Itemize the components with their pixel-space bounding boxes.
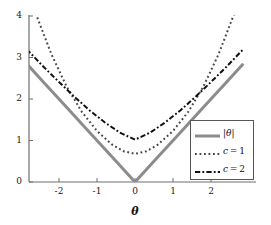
y-tick-label: 1 xyxy=(8,135,22,145)
legend-line-sample xyxy=(194,163,221,175)
y-tick-label: 0 xyxy=(8,176,22,186)
legend-item: |θ| xyxy=(194,125,252,141)
x-tick-label: 1 xyxy=(163,186,183,196)
legend-label: c = 1 xyxy=(223,146,245,156)
y-tick-label: 3 xyxy=(8,52,22,62)
chart-figure: 01234 -2-1012 θ |θ|c = 1c = 2 xyxy=(0,0,271,225)
x-tick-label: -2 xyxy=(49,186,69,196)
x-tick-label: 0 xyxy=(125,186,145,196)
legend-line-sample xyxy=(194,127,221,139)
legend-box: |θ|c = 1c = 2 xyxy=(190,120,254,180)
legend-line-sample xyxy=(194,145,221,157)
y-tick-label: 2 xyxy=(8,93,22,103)
legend-item: c = 2 xyxy=(194,161,252,177)
legend-label: c = 2 xyxy=(223,164,245,174)
legend-item: c = 1 xyxy=(194,143,252,159)
legend-label: |θ| xyxy=(223,128,234,138)
x-axis-title: θ xyxy=(115,205,155,218)
y-tick-label: 4 xyxy=(8,10,22,20)
x-tick-label: -1 xyxy=(87,186,107,196)
x-tick-label: 2 xyxy=(201,186,221,196)
